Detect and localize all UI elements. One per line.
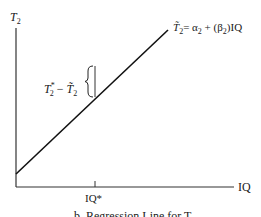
- line-equation: T̃2= α2 + (β2)IQ: [173, 22, 242, 36]
- x-axis-label: IQ: [238, 181, 251, 193]
- gap-label: T*2 − T̃2: [44, 82, 77, 98]
- gap-b-sub: 2: [73, 89, 77, 98]
- eq-suffix: )IQ: [227, 21, 242, 33]
- figure-caption: b. Regression Line for T₂: [74, 210, 196, 217]
- x-tick-label: IQ*: [85, 193, 102, 204]
- gap-minus: −: [54, 82, 67, 96]
- eq-beta: + (β: [202, 21, 223, 33]
- y-axis-label: T2: [10, 11, 21, 26]
- y-axis-label-sub: 2: [17, 17, 21, 26]
- regression-line: [16, 30, 168, 174]
- y-axis-label-main: T: [10, 10, 17, 24]
- eq-alpha: = α: [183, 21, 198, 33]
- curly-brace-icon: [85, 66, 93, 97]
